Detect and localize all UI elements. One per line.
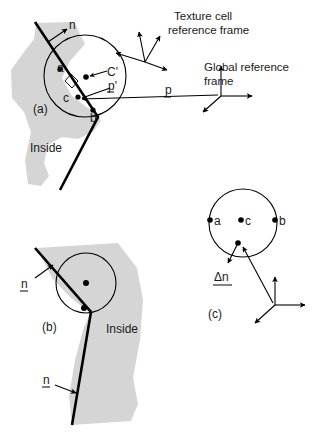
axis-triad-icon-c-diag — [255, 305, 275, 323]
axis-triad-icon-global-diag — [203, 96, 221, 112]
panel-a-cell-center-label: C' — [107, 65, 118, 79]
axis-triad-icon-texture-right — [145, 62, 167, 70]
panel-c-position-vector-arrow — [243, 247, 273, 303]
figure-root: n a c b C' p' (a) Inside — [0, 0, 319, 440]
panel-c-point-label-b: b — [279, 214, 286, 228]
point-dot-icon-cell-center — [83, 74, 89, 80]
texture-frame-label-line1: Texture cell — [174, 10, 232, 22]
panel-b: n n (b) Inside — [20, 243, 143, 425]
axis-triad-icon-texture-left — [116, 53, 145, 62]
panel-b-normal-label-lower: n — [43, 373, 50, 387]
panel-a-position-vector-label: p' — [108, 79, 117, 93]
point-dot-icon-c-center — [238, 217, 244, 223]
panel-c-delta-label: Δn — [214, 270, 229, 284]
texture-frame-label-line2: reference frame — [168, 24, 249, 36]
panel-b-label: (b) — [42, 320, 57, 334]
panel-a-position-vector-leader — [82, 88, 110, 98]
panel-a-point-label-a: a — [57, 61, 64, 75]
panel-c-point-label-c: c — [245, 214, 251, 228]
point-dot-icon-b-center — [83, 280, 89, 286]
panel-a: n a c b C' p' (a) Inside — [11, 18, 126, 190]
panel-a-point-label-c: c — [63, 91, 69, 105]
point-dot-icon-c — [75, 94, 80, 99]
axis-triad-icon-texture-diag — [145, 36, 160, 62]
panel-c-label: (c) — [208, 307, 222, 321]
panel-a-point-label-b: b — [90, 111, 97, 125]
point-dot-icon-b-contact — [81, 305, 87, 311]
technical-figure: n a c b C' p' (a) Inside — [0, 0, 319, 440]
panel-c-point-label-a: a — [214, 214, 221, 228]
global-frame-label-line2: frame — [204, 75, 233, 87]
panel-a-normal-label: n — [69, 18, 76, 32]
point-dot-icon-c-b — [272, 217, 278, 223]
global-position-vector-arrow — [82, 95, 218, 99]
panel-a-inside-label: Inside — [30, 141, 62, 155]
panel-b-inside-label: Inside — [106, 322, 138, 336]
point-dot-icon-c-a — [207, 217, 213, 223]
global-frame-label-line1: Global reference — [204, 61, 289, 73]
global-position-vector-label: p — [165, 83, 172, 97]
panel-c-delta-normal-arrow — [228, 243, 238, 263]
axis-triad-icon-texture-up — [139, 32, 145, 62]
panel-b-normal-label-upper: n — [21, 277, 28, 291]
panel-c: a c b Δn (c) — [207, 189, 305, 323]
panel-a-cell-center-leader — [90, 71, 107, 76]
panel-a-label: (a) — [33, 102, 48, 116]
